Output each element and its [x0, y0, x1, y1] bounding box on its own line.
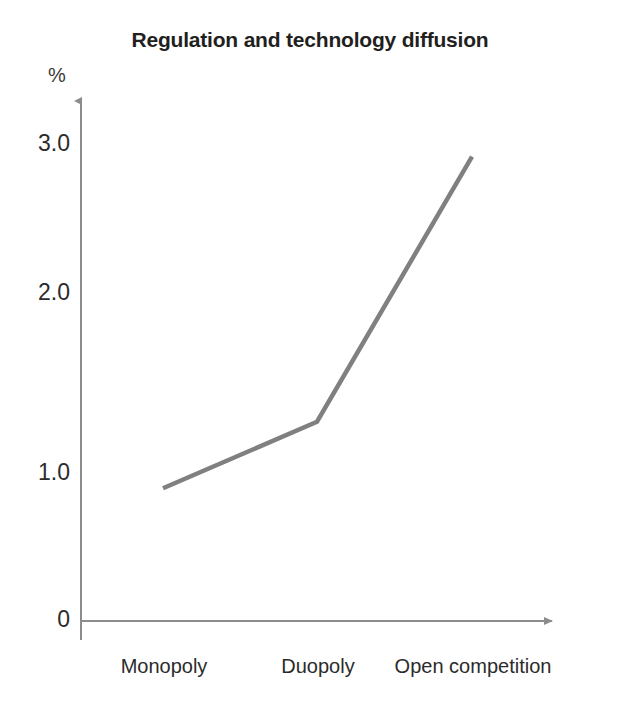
x-axis-tick-labels: Monopoly Duopoly Open competition: [0, 0, 620, 710]
x-tick-duopoly: Duopoly: [281, 656, 354, 676]
x-tick-open-competition: Open competition: [395, 656, 552, 676]
x-tick-monopoly: Monopoly: [121, 656, 208, 676]
chart-page: Regulation and technology diffusion % 3.…: [0, 0, 620, 710]
